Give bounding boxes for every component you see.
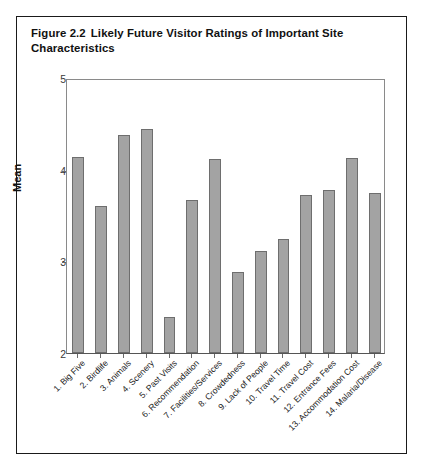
bar	[232, 272, 244, 353]
plot-area	[66, 79, 385, 354]
bar	[323, 190, 335, 353]
x-axis-labels: 1. Big Five2. Birdlife3. Animals4. Scene…	[66, 358, 406, 458]
chart-plot: Mean 2345 1. Big Five2. Birdlife3. Anima…	[17, 17, 408, 455]
y-axis-title: Mean	[11, 164, 23, 192]
bar	[300, 195, 312, 353]
bar	[209, 159, 221, 353]
y-tick-label: 5	[50, 73, 66, 85]
bar	[141, 129, 153, 353]
bar	[95, 206, 107, 353]
bar	[255, 251, 267, 353]
bar	[278, 239, 290, 353]
y-axis-ticks: 2345	[44, 79, 66, 354]
bar	[369, 193, 381, 353]
bar	[72, 157, 84, 353]
bar	[118, 135, 130, 353]
bar	[164, 317, 176, 353]
y-tick-label: 2	[50, 348, 66, 360]
bar	[346, 158, 358, 353]
bars-layer	[67, 80, 384, 353]
bar	[186, 200, 198, 353]
figure-frame: Figure 2.2Likely Future Visitor Ratings …	[16, 16, 407, 454]
